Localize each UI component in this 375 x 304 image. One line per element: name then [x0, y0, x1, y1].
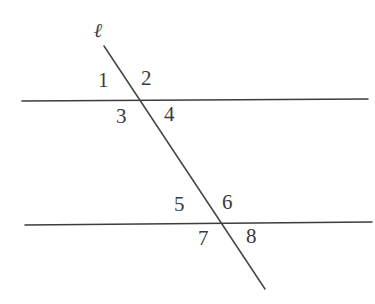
figure-background: [0, 0, 375, 304]
angle-label-7: 7: [198, 228, 209, 249]
angle-label-5: 5: [174, 194, 185, 215]
geometry-figure: ℓ 1 2 3 4 5 6 7 8: [0, 0, 375, 304]
figure-canvas: [0, 0, 375, 304]
angle-label-6: 6: [222, 192, 233, 213]
angle-label-8: 8: [246, 226, 257, 247]
angle-label-4: 4: [164, 104, 175, 125]
angle-label-3: 3: [116, 106, 127, 127]
angle-label-2: 2: [141, 68, 152, 89]
angle-label-1: 1: [98, 70, 109, 91]
transversal-label-ell: ℓ: [94, 20, 103, 40]
